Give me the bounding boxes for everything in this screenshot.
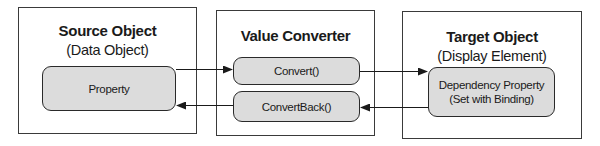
connector-arrows [0, 0, 600, 146]
